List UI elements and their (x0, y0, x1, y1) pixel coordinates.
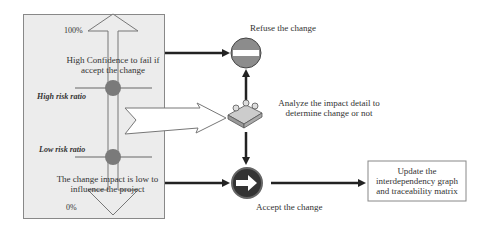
update-label: Update the interdependency graph and tra… (370, 166, 464, 196)
high-risk-marker (105, 80, 121, 96)
right-arrow-sign-icon (232, 168, 262, 198)
high-risk-label: High risk ratio (37, 92, 86, 101)
analyze-label: Analyze the impact detail to determine c… (268, 98, 390, 118)
no-entry-icon (231, 38, 261, 68)
accept-label: Accept the change (256, 202, 322, 212)
people-meeting-icon (228, 100, 262, 128)
low-impact-text: The change impact is low to influence th… (55, 174, 160, 194)
top-percent-label: 100% (64, 26, 83, 36)
high-confidence-text: High Confidence to fail if accept the ch… (58, 55, 168, 75)
low-risk-label: Low risk ratio (39, 145, 85, 154)
analyze-chevron-arrow (125, 103, 226, 134)
low-risk-marker (105, 149, 121, 165)
bottom-percent-label: 0% (66, 203, 77, 213)
refuse-label: Refuse the change (250, 23, 316, 33)
